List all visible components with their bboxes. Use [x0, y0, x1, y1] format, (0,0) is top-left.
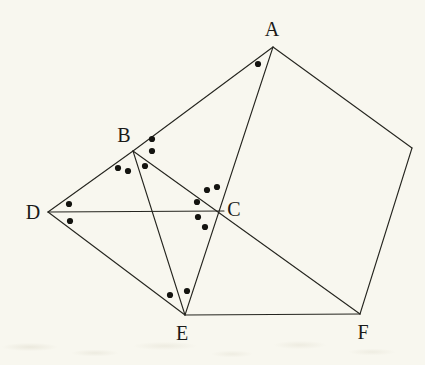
segments-group — [48, 47, 412, 315]
seg-A-E — [185, 47, 273, 315]
dot-at-E-2 — [184, 288, 190, 294]
dot-at-C-5 — [202, 224, 208, 230]
dot-at-C-4 — [195, 214, 201, 220]
seg-A-G — [273, 47, 412, 148]
dot-at-B-1 — [149, 136, 155, 142]
figure-canvas — [0, 0, 425, 365]
vertex-label-B: B — [117, 125, 130, 145]
dot-at-B-4 — [125, 168, 131, 174]
geometry-figure: ABCDEF — [0, 0, 425, 365]
seg-B-F — [133, 151, 360, 314]
dot-at-D-1 — [66, 201, 72, 207]
dot-at-D-2 — [67, 218, 73, 224]
vertex-label-D: D — [26, 202, 40, 222]
dot-at-E-1 — [167, 292, 173, 298]
dot-at-A-1 — [255, 61, 261, 67]
seg-D-B — [48, 151, 133, 212]
vertex-label-F: F — [357, 322, 368, 342]
vertex-label-C: C — [227, 199, 240, 219]
dot-at-B-3 — [115, 165, 121, 171]
vertex-label-E: E — [176, 323, 188, 343]
seg-F-E — [185, 314, 360, 315]
angle-dots-group — [66, 61, 261, 298]
seg-B-A — [133, 47, 273, 151]
seg-E-D — [48, 212, 185, 315]
vertex-label-A: A — [265, 19, 279, 39]
dot-at-C-2 — [214, 184, 220, 190]
dot-at-C-3 — [194, 199, 200, 205]
seg-G-F — [360, 148, 412, 314]
seg-D-C — [48, 211, 224, 212]
dot-at-B-5 — [142, 163, 148, 169]
dot-at-B-2 — [149, 148, 155, 154]
seg-B-E — [133, 151, 185, 315]
dot-at-C-1 — [204, 187, 210, 193]
